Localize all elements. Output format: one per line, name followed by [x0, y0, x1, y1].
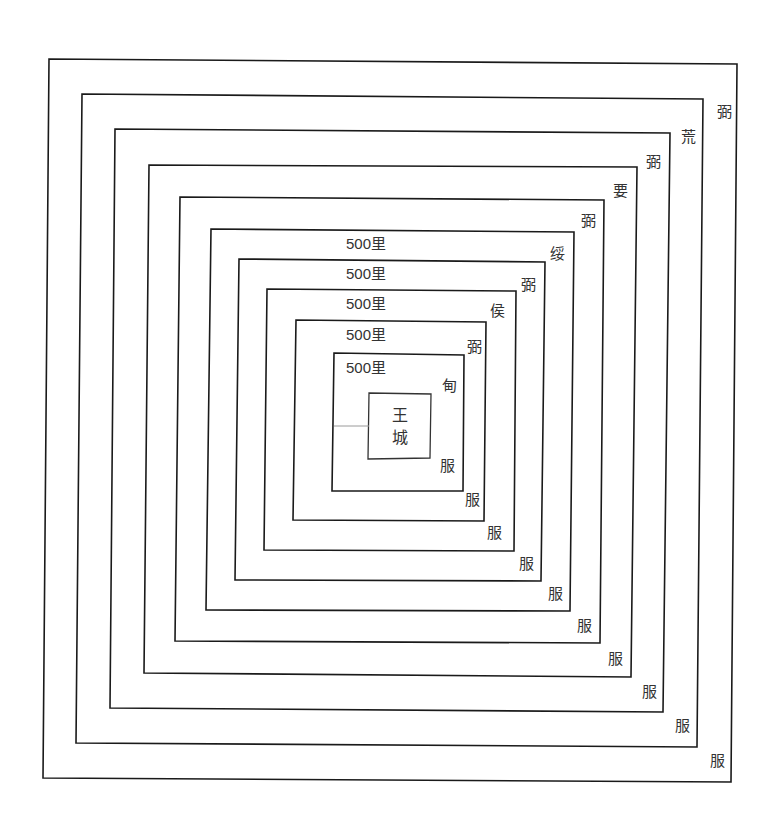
ring-label-bi-2: 弼: [521, 276, 536, 294]
distance-label-4: 500里: [346, 326, 386, 343]
fu-label-4: 服: [519, 555, 534, 573]
ring-label-bi-1: 弼: [467, 338, 482, 356]
box-ring-6: [206, 229, 574, 611]
zone-label-hou: 侯: [490, 302, 505, 320]
ring-label-bi-4: 弼: [646, 153, 661, 171]
royal-city-box: [368, 393, 431, 459]
ring-label-bi-5: 弼: [717, 103, 732, 121]
zone-label-dian: 甸: [442, 377, 457, 395]
zone-label-yao: 要: [613, 182, 628, 200]
ring-label-bi-3: 弼: [581, 212, 596, 230]
fu-label-6: 服: [577, 617, 592, 635]
fu-label-8: 服: [642, 683, 657, 701]
zone-label-huang: 荒: [681, 128, 696, 146]
distance-label-2: 500里: [346, 265, 386, 282]
distance-label-1: 500里: [346, 235, 386, 252]
fu-label-3: 服: [487, 524, 502, 542]
fu-label-1: 服: [440, 457, 455, 475]
fu-label-9: 服: [675, 717, 690, 735]
five-zones-diagram: 王 城 500里 500里 500里 500里 500里 甸 弼 侯 弼 绥 弼…: [0, 0, 781, 833]
center-label-1: 王: [392, 406, 408, 425]
fu-label-10: 服: [710, 752, 725, 770]
center-label-2: 城: [392, 428, 408, 447]
box-ring-8: [264, 289, 516, 551]
distance-label-5: 500里: [346, 359, 386, 376]
fu-label-5: 服: [548, 585, 563, 603]
box-ring-4: [144, 165, 637, 677]
distance-label-3: 500里: [346, 295, 386, 312]
fu-label-2: 服: [465, 491, 480, 509]
zone-label-sui: 绥: [550, 245, 565, 263]
fu-label-7: 服: [608, 650, 623, 668]
